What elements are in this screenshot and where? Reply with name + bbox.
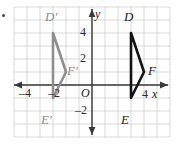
y-axis-label: y	[95, 8, 100, 20]
vertex-label-f-prime: F′	[67, 64, 78, 77]
vertex-label-d-prime: D′	[45, 10, 57, 23]
vertex-label-e-prime: E′	[41, 113, 52, 126]
coordinate-plane-figure: D′ E′ F′ D E F –4 –2 4 4 2 –2 O y x	[0, 0, 179, 149]
x-axis-label: x	[152, 88, 157, 100]
y-tick-minus-2: –2	[75, 104, 87, 116]
x-tick-4: 4	[142, 88, 148, 100]
x-tick-minus-4: –4	[19, 87, 31, 99]
y-tick-4: 4	[80, 26, 86, 38]
y-tick-2: 2	[80, 52, 86, 64]
origin-label: O	[81, 87, 90, 99]
vertex-label-e: E	[121, 113, 129, 126]
x-tick-minus-2: –2	[48, 87, 60, 99]
vertex-label-d: D	[124, 10, 133, 23]
vertex-label-f: F	[148, 64, 156, 77]
